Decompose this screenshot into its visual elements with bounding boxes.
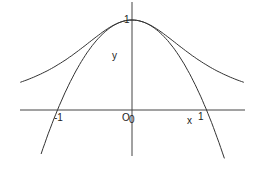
origin-tick-label: 0 — [129, 115, 135, 125]
y-axis-label: y — [112, 51, 117, 61]
plot-area — [0, 0, 260, 175]
tick-pos1-label: 1 — [198, 112, 204, 122]
parabola-curve — [41, 20, 224, 158]
x-axis-label: x — [187, 116, 192, 126]
tick-neg1-label: -1 — [54, 113, 63, 123]
tick-y1-label: 1 — [124, 15, 130, 25]
